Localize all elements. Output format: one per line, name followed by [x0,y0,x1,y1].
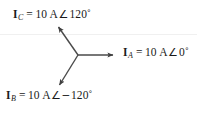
degree-symbol-ib: ° [89,89,93,98]
phasor-symbol-ia: I [123,46,128,58]
angle-sign-ib: − [61,89,71,101]
phasor-magnitude-ib: 10 [28,89,40,101]
phasor-unit-ib: A [40,89,51,101]
phasor-label-ib: IB=10A∠−120° [6,90,92,103]
phasor-diagram-figure: IC=10A∠120° IA=10A∠0° IB=10A∠−120° [0,0,197,115]
phasor-label-ic: IC=10A∠120° [13,9,91,22]
phasor-vector-ib [60,55,79,85]
phasor-angle-ib: 120 [71,89,89,101]
equals-sign-ib: = [16,89,28,101]
phasor-symbol-ic: I [13,8,18,20]
phasor-vector-ic [59,27,79,55]
equals-sign-ia: = [133,46,145,58]
angle-symbol-ic: ∠ [58,8,68,21]
phasor-symbol-ib: I [6,89,11,101]
phasor-magnitude-ic: 10 [35,8,47,20]
angle-symbol-ia: ∠ [168,46,178,59]
phasor-unit-ic: A [47,8,58,20]
phasor-angle-ic: 120 [69,8,87,20]
phasor-label-ia: IA=10A∠0° [123,47,189,60]
equals-sign-ic: = [23,8,35,20]
phasor-unit-ia: A [157,46,168,58]
phasor-magnitude-ia: 10 [145,46,157,58]
degree-symbol-ia: ° [185,46,189,55]
degree-symbol-ic: ° [87,8,91,17]
angle-symbol-ib: ∠ [51,89,61,102]
